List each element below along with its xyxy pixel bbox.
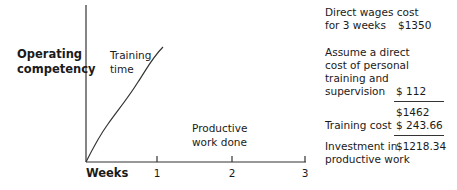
training-cost-value: $ 243.66 <box>396 119 443 132</box>
training-time-label: Training time <box>110 48 151 76</box>
training-time-label-line: Training <box>110 48 151 62</box>
y-axis-label-line: competency <box>17 62 82 77</box>
direct-wages-value: $1350 <box>398 19 431 32</box>
productive-work-label: Productive work done <box>192 121 247 149</box>
subtotal-value: $1462 <box>396 106 429 119</box>
y-axis-label-line: Operating <box>17 47 82 62</box>
training-time-label-line: time <box>110 62 151 76</box>
investment-label-line: productive work <box>325 153 410 166</box>
subtotal-rule <box>394 101 444 102</box>
personal-training-label-line: cost of personal <box>325 59 410 72</box>
direct-wages-label-line: Direct wages cost <box>325 6 419 19</box>
productive-work-label-line: work done <box>192 135 247 149</box>
x-axis-label: Weeks <box>86 166 128 180</box>
total-rule <box>394 135 444 136</box>
personal-training-value: $ 112 <box>396 85 426 98</box>
x-tick-label-1: 1 <box>154 167 161 179</box>
x-tick-label-3: 3 <box>302 167 309 179</box>
productive-work-label-line: Productive <box>192 121 247 135</box>
x-tick-label-2: 2 <box>229 167 236 179</box>
personal-training-label-line: Assume a direct <box>325 46 410 59</box>
investment-value: $1218.34 <box>396 140 446 153</box>
training-cost-label: Training cost <box>325 119 392 132</box>
y-axis-label: Operating competency <box>17 47 82 77</box>
personal-training-label-line: training and <box>325 72 410 85</box>
